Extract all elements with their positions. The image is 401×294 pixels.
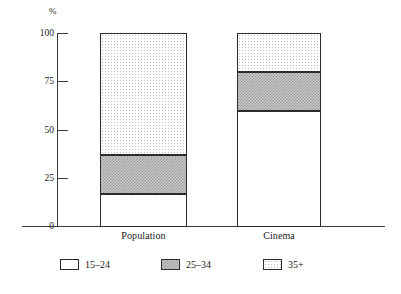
legend-item-15-24: 15–24 [60, 258, 110, 271]
x-axis-label-population: Population [96, 229, 191, 242]
bar-segment-population-25-34 [100, 155, 187, 194]
y-tick-mark-100 [58, 33, 68, 34]
bar-population [100, 33, 187, 227]
bar-segment-cinema-25-34 [237, 72, 321, 111]
y-tick-label-25: 25 [28, 173, 54, 183]
legend-label-25-34: 25–34 [186, 258, 211, 271]
stacked-bar-chart: % 100 75 50 25 0 Population Cinema 15 [0, 0, 401, 294]
y-tick-label-0: 0 [28, 221, 54, 231]
x-axis-label-cinema: Cinema [234, 229, 324, 242]
legend-swatch-15-24 [60, 259, 79, 270]
y-tick-label-wrap-25: 25 [26, 178, 54, 179]
y-tick-label-wrap-0: 0 [26, 226, 54, 227]
y-tick-label-75: 75 [28, 76, 54, 86]
y-tick-mark-50 [58, 130, 68, 131]
legend-item-25-34: 25–34 [161, 258, 211, 271]
y-tick-label-50: 50 [28, 125, 54, 135]
bar-segment-population-35plus [100, 33, 187, 155]
legend-label-35plus: 35+ [288, 258, 304, 271]
bar-segment-cinema-35plus [237, 33, 321, 72]
y-tick-mark-25 [58, 178, 68, 179]
y-tick-label-wrap-100: 100 [26, 33, 54, 34]
chart-legend: 15–24 25–34 35+ [0, 258, 401, 280]
y-tick-mark-75 [58, 81, 68, 82]
x-axis-line [22, 226, 385, 227]
bar-cinema [237, 33, 321, 227]
y-tick-label-100: 100 [28, 28, 54, 38]
legend-swatch-35plus [263, 259, 282, 270]
y-tick-label-wrap-75: 75 [26, 81, 54, 82]
legend-swatch-25-34 [161, 259, 180, 270]
y-tick-label-wrap-50: 50 [26, 130, 54, 131]
bar-segment-population-15-24 [100, 194, 187, 227]
y-axis-unit-label: % [49, 6, 57, 16]
legend-label-15-24: 15–24 [85, 258, 110, 271]
legend-item-35plus: 35+ [263, 258, 304, 271]
bar-segment-cinema-15-24 [237, 111, 321, 227]
